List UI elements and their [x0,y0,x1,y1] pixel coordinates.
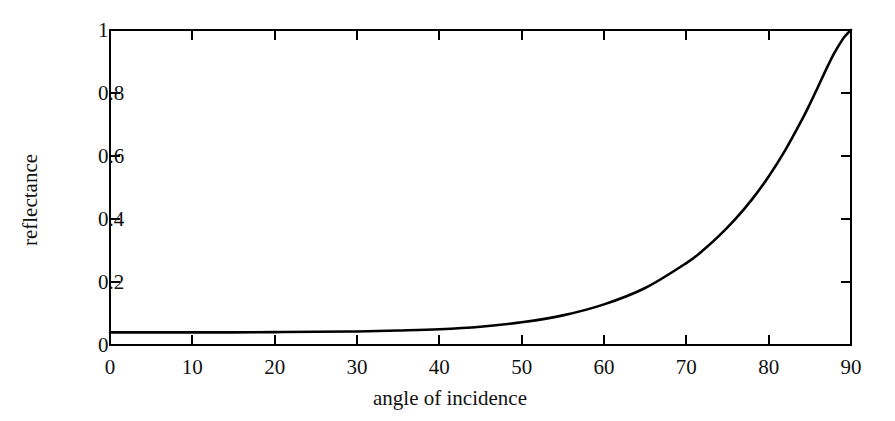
x-tick-label: 40 [429,357,450,378]
x-tick-label: 60 [594,357,615,378]
chart-figure: 0102030405060708090 00.20.40.60.81 angle… [0,0,895,421]
y-axis-title: reflectance [20,154,41,246]
x-tick-label: 90 [841,357,862,378]
x-tick-label: 0 [105,357,116,378]
x-tick-label: 70 [676,357,697,378]
x-tick-label: 80 [758,357,779,378]
plot-frame [110,30,851,345]
x-tick-label: 30 [347,357,368,378]
x-tick-label: 50 [511,357,532,378]
x-tick-label: 10 [182,357,203,378]
x-tick-label: 20 [264,357,285,378]
x-axis-title: angle of incidence [373,388,527,409]
